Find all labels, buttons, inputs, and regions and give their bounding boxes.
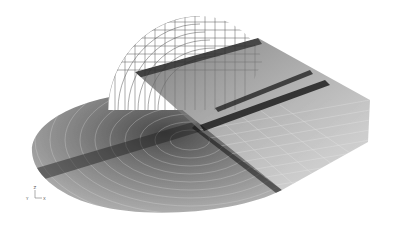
- axis-triad: Z Y X: [25, 185, 46, 201]
- y-axis-label: Y: [25, 196, 29, 201]
- z-axis-label: Z: [34, 185, 37, 190]
- mesh-figure: Z Y X: [0, 0, 395, 233]
- x-axis-label: X: [43, 196, 46, 201]
